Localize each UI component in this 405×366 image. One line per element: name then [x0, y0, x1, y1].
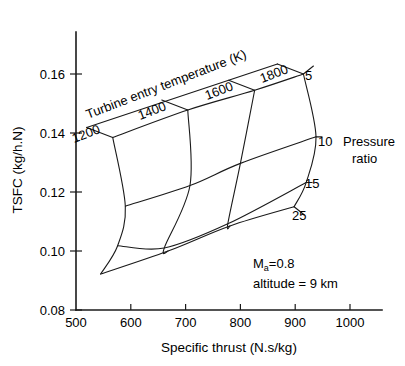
mach-annotation: Ma=0.8 [253, 256, 295, 273]
pressure-ratio-line-10 [125, 137, 316, 206]
mach-value: =0.8 [269, 256, 295, 271]
pr-label-15: 15 [305, 176, 319, 191]
tet-curve-1200 [101, 137, 126, 274]
x-tick-label-500: 500 [65, 315, 87, 330]
y-tick-label-0.12: 0.12 [40, 185, 65, 200]
y-tick-label-0.14: 0.14 [40, 126, 65, 141]
axes-group [76, 32, 382, 310]
x-tick-label-900: 900 [284, 315, 306, 330]
pressure-ratio-legend-line1: Pressure [343, 134, 395, 149]
pressure-ratio-line-15 [118, 183, 307, 250]
y-tick-label-0.10: 0.10 [40, 244, 65, 259]
condition-annotations: Ma=0.8 altitude = 9 km [253, 256, 338, 291]
x-axis-title: Specific thrust (N.s/kg) [161, 340, 297, 355]
y-tick-label-0.08: 0.08 [40, 303, 65, 318]
pressure-ratio-legend-line2: ratio [352, 151, 377, 166]
x-axis-ticks: 5006007008009001000 [65, 304, 364, 330]
carpet-plot-svg: 0.080.100.120.140.16 5006007008009001000… [0, 0, 405, 366]
pr-label-5: 5 [305, 68, 312, 83]
pr-label-25: 25 [292, 208, 306, 223]
x-tick-label-800: 800 [230, 315, 252, 330]
tet-label-1800: 1800 [258, 61, 290, 85]
mach-symbol: M [253, 256, 264, 271]
label-leader-lines [87, 64, 322, 215]
x-tick-label-600: 600 [120, 315, 142, 330]
y-axis-title: TSFC (kg/h.N) [10, 126, 25, 213]
chart-container: 0.080.100.120.140.16 5006007008009001000… [0, 0, 405, 366]
tet-label-1200: 1200 [70, 121, 102, 145]
pr-label-10: 10 [318, 134, 332, 149]
x-tick-label-700: 700 [175, 315, 197, 330]
pressure-ratio-legend: Pressure ratio [343, 134, 395, 166]
x-tick-label-1000: 1000 [336, 315, 365, 330]
y-tick-label-0.16: 0.16 [40, 67, 65, 82]
tet-label-1600: 1600 [203, 78, 235, 102]
altitude-annotation: altitude = 9 km [253, 276, 338, 291]
tet-curve-1400 [163, 110, 191, 254]
